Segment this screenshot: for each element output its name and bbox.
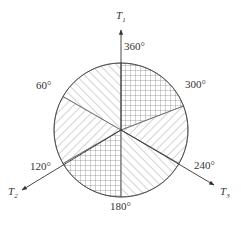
angle-label-120: 120° [30,160,51,172]
angle-label-180: 180° [110,200,131,212]
angle-label-300: 300° [185,78,206,90]
axis-label-t1: T1 [116,9,126,24]
angle-label-60: 60° [36,79,51,91]
angle-label-240: 240° [194,159,215,171]
angle-label-360: 360° [124,40,145,52]
sector-diagram: T1 T2 T3 360° 300° 240° 180° 120° 60° [0,0,241,232]
axis-label-t3: T3 [220,185,230,200]
axis-label-t2: T2 [8,185,18,200]
